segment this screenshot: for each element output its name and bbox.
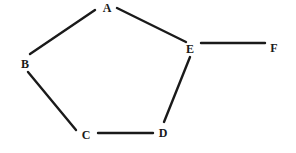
nodes-group: ABCDEF: [21, 1, 278, 142]
node-f: F: [270, 41, 277, 55]
node-e: E: [186, 42, 194, 56]
node-d: D: [159, 126, 168, 140]
edge-b-c: [28, 72, 76, 130]
graph-diagram: ABCDEF: [0, 0, 296, 153]
edge-a-e: [117, 8, 186, 42]
edge-a-b: [30, 10, 95, 54]
node-c: C: [82, 128, 91, 142]
edge-d-e: [164, 57, 190, 122]
edges-group: [28, 8, 265, 133]
node-a: A: [103, 1, 112, 15]
node-b: B: [21, 57, 29, 71]
